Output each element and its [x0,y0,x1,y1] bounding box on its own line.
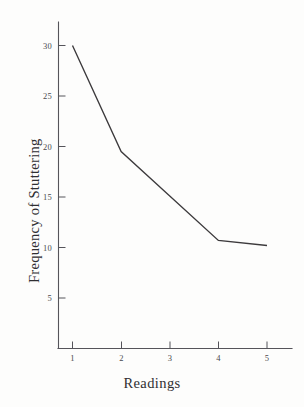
chart-figure: 30 25 20 15 10 5 1 2 3 4 5 Frequency of … [0,0,304,407]
y-tick-label-25: 25 [43,91,52,101]
x-tick-label-1: 1 [70,353,74,363]
y-tick-label-30: 30 [43,41,52,51]
x-axis-ticks [73,342,268,349]
y-tick-label-10: 10 [43,243,52,253]
x-tick-label-3: 3 [168,353,172,363]
y-axis-ticks [59,46,66,299]
x-tick-label-2: 2 [119,353,123,363]
x-axis-tick-labels: 1 2 3 4 5 [70,353,269,363]
x-tick-label-5: 5 [265,353,269,363]
y-tick-label-15: 15 [43,192,52,202]
line-chart-plot: 30 25 20 15 10 5 1 2 3 4 5 [0,0,304,407]
y-axis-tick-labels: 30 25 20 15 10 5 [43,41,52,304]
data-series-line [73,46,268,246]
y-tick-label-5: 5 [48,293,52,303]
x-tick-label-4: 4 [216,353,221,363]
y-tick-label-20: 20 [43,142,52,152]
x-axis-title: Readings [0,375,304,392]
y-axis-title: Frequency of Stuttering [26,138,43,283]
